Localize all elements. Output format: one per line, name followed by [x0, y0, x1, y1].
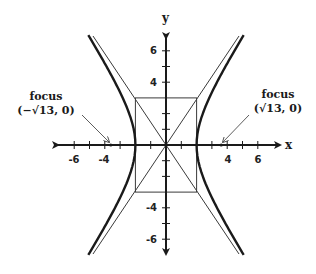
y-axis-label: y — [161, 11, 170, 25]
focus-right-coords: (√13, 0) — [254, 102, 302, 115]
focus-right-label: focus — [262, 88, 295, 101]
y-tick-label: -6 — [146, 234, 157, 245]
focus-right-leader — [223, 115, 249, 142]
x-tick-label: -6 — [68, 154, 79, 165]
y-tick-label: 4 — [150, 77, 157, 88]
focus-left-coords: (−√13, 0) — [17, 104, 74, 117]
hyperbola-diagram: -6 -4 4 6 6 4 -4 -6 x y focus (−√13, 0) … — [0, 0, 316, 274]
x-tick-label: 4 — [225, 154, 232, 165]
focus-left-label: focus — [30, 90, 63, 103]
focus-right-point — [220, 143, 223, 146]
y-tick-label: -4 — [146, 202, 157, 213]
x-axis-label: x — [285, 138, 293, 152]
x-tick-label: 6 — [255, 154, 262, 165]
y-tick-label: 6 — [150, 45, 157, 56]
focus-left-leader — [82, 115, 109, 142]
x-tick-label: -4 — [98, 154, 109, 165]
focus-left-point — [109, 143, 112, 146]
